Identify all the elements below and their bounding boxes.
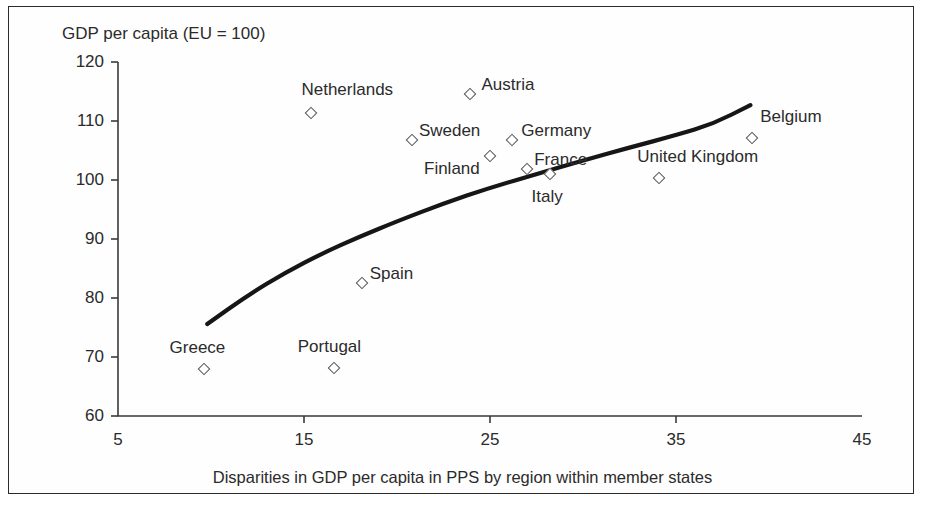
x-tick-label: 5: [93, 430, 143, 450]
x-axis-title: Disparities in GDP per capita in PPS by …: [0, 468, 925, 487]
data-point-label: Austria: [482, 75, 535, 95]
data-point-label: Finland: [424, 159, 480, 179]
data-point-label: Belgium: [760, 107, 821, 127]
y-tick-label: 120: [58, 52, 104, 72]
y-tick-label: 110: [58, 111, 104, 131]
data-point-label: Greece: [170, 338, 226, 358]
y-tick-label: 100: [58, 170, 104, 190]
y-tick-label: 80: [58, 288, 104, 308]
y-tick-label: 70: [58, 347, 104, 367]
y-tick-label: 90: [58, 229, 104, 249]
x-tick-label: 15: [279, 430, 329, 450]
axis-lines: [118, 62, 862, 416]
data-point-label: France: [534, 150, 587, 170]
x-tick-label: 45: [837, 430, 887, 450]
x-tick-label: 35: [651, 430, 701, 450]
data-point-label: United Kingdom: [637, 147, 758, 167]
scatter-plot: GDP per capita (EU = 100) 60708090100110…: [0, 0, 925, 510]
y-tick-label: 60: [58, 406, 104, 426]
data-point-label: Portugal: [298, 337, 361, 357]
chart-screenshot: GDP per capita (EU = 100) 60708090100110…: [0, 0, 925, 510]
data-point-label: Italy: [532, 187, 563, 207]
data-point-label: Netherlands: [301, 80, 393, 100]
data-point-label: Germany: [521, 121, 591, 141]
data-point-label: Spain: [370, 264, 413, 284]
x-tick-label: 25: [465, 430, 515, 450]
data-point-label: Sweden: [419, 121, 480, 141]
